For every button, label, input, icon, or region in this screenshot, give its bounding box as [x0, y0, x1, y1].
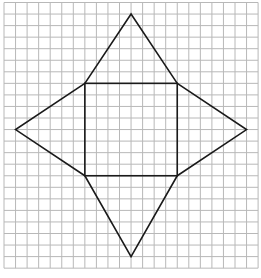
grid-paper: [0, 0, 261, 278]
diagram-canvas: [0, 0, 261, 278]
